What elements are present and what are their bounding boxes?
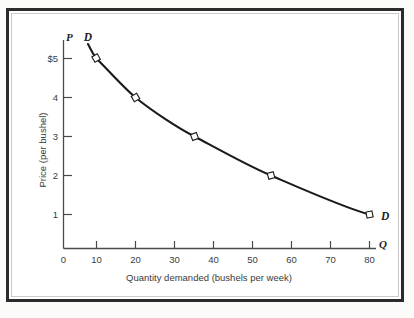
x-axis-symbol-q: Q [379, 238, 387, 250]
x-tick-label-0: 0 [61, 254, 66, 265]
y-tick-label-5: $5 [47, 53, 58, 64]
y-axis-tick-labels: $5 4 3 2 1 [47, 53, 58, 220]
y-axis-title: Price (per bushel) [37, 113, 48, 188]
x-tick-label-50: 50 [247, 254, 258, 265]
x-tick-label-40: 40 [208, 254, 219, 265]
x-axis-tick-labels: 0 10 20 30 40 50 60 70 80 [61, 254, 375, 265]
y-tick-label-2: 2 [53, 170, 58, 181]
x-tick-label-60: 60 [286, 254, 297, 265]
x-tick-label-70: 70 [325, 254, 336, 265]
data-point-55-2 [267, 172, 275, 180]
data-point-35-3 [191, 133, 199, 141]
x-tick-label-30: 30 [169, 254, 180, 265]
demand-curve-label-top: D [83, 31, 93, 43]
x-tick-label-80: 80 [364, 254, 375, 265]
x-axis-title: Quantity demanded (bushels per week) [126, 272, 292, 283]
chart-canvas: $5 4 3 2 1 0 10 20 3 [0, 0, 414, 318]
y-axis-ticks [64, 59, 73, 215]
axes-group [64, 40, 377, 249]
y-tick-label-1: 1 [53, 209, 58, 220]
demand-curve-label-bottom: D [380, 210, 390, 222]
y-tick-label-4: 4 [53, 92, 58, 103]
x-axis-ticks [97, 241, 370, 249]
demand-curve-line [88, 44, 370, 215]
y-axis-symbol-p: P [66, 31, 73, 43]
demand-curve-chart: $5 4 3 2 1 0 10 20 3 [0, 0, 414, 318]
x-tick-label-20: 20 [130, 254, 141, 265]
demand-curve-markers [92, 54, 373, 218]
x-tick-label-10: 10 [91, 254, 102, 265]
data-point-80-1 [366, 211, 373, 218]
y-tick-label-3: 3 [53, 131, 58, 142]
figure-root: $5 4 3 2 1 0 10 20 3 [0, 0, 414, 318]
